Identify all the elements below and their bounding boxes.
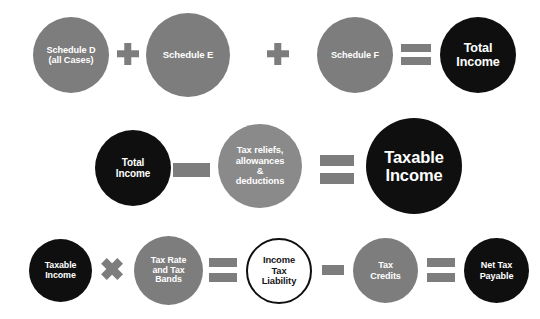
operator-multiply-1	[100, 257, 123, 280]
node-tax-reliefs-line-4: deductions	[236, 176, 285, 186]
node-tax-rate-bands-line-3: Bands	[155, 274, 182, 284]
operator-equals-4	[427, 258, 455, 282]
equals-icon-bottom-bar	[427, 273, 455, 282]
diagram-row-net-tax-payable: Taxable Income Tax Rate and Tax Bands In…	[0, 220, 540, 319]
node-tax-rate-bands-line-1: Tax Rate	[151, 255, 187, 265]
node-taxable-income-result[interactable]: Taxable Income	[366, 118, 462, 214]
node-income-tax-liability[interactable]: Income Tax Liability	[246, 238, 312, 304]
node-tax-rate-bands[interactable]: Tax Rate and Tax Bands	[134, 236, 203, 305]
operator-plus-1	[117, 43, 139, 65]
operator-plus-2	[267, 43, 289, 65]
node-schedule-e-label: Schedule E	[161, 50, 216, 61]
node-net-tax-payable-line-1: Net Tax	[481, 260, 512, 270]
node-income-tax-liability-line-2: Tax	[271, 265, 286, 276]
plus-icon-vertical-bar	[274, 43, 281, 65]
node-total-income-line-2: Income	[116, 168, 150, 179]
income-tax-computation-diagram: Schedule D (all Cases) Schedule E Schedu…	[0, 0, 540, 319]
node-net-tax-payable[interactable]: Net Tax Payable	[464, 238, 529, 303]
operator-minus-1	[173, 163, 210, 177]
node-schedule-d-line-2: (all Cases)	[49, 55, 94, 65]
equals-icon-top-bar	[401, 44, 431, 52]
node-taxable-income-line-1: Taxable	[45, 260, 77, 270]
equals-icon-bottom-bar	[209, 273, 237, 282]
node-tax-rate-bands-line-2: and Tax	[152, 265, 184, 275]
node-tax-reliefs[interactable]: Tax reliefs, allowances & deductions	[218, 124, 302, 208]
plus-icon-vertical-bar	[124, 43, 131, 65]
node-total-income-result-line-2: Income	[456, 55, 500, 69]
node-schedule-e[interactable]: Schedule E	[146, 13, 230, 97]
operator-equals-2	[320, 155, 354, 184]
node-tax-reliefs-line-1: Tax reliefs,	[237, 145, 284, 155]
node-schedule-f[interactable]: Schedule F	[317, 17, 393, 93]
node-tax-reliefs-line-2: allowances	[236, 156, 285, 166]
node-tax-credits[interactable]: Tax Credits	[353, 238, 418, 303]
equals-icon-top-bar	[427, 258, 455, 267]
node-total-income-result-line-1: Total	[464, 41, 493, 55]
node-income-tax-liability-line-1: Income	[263, 254, 295, 265]
minus-icon-bar	[173, 163, 210, 177]
node-taxable-income[interactable]: Taxable Income	[29, 239, 92, 302]
node-schedule-d[interactable]: Schedule D (all Cases)	[33, 17, 109, 93]
node-net-tax-payable-line-2: Payable	[480, 271, 514, 281]
minus-icon-bar	[322, 265, 344, 275]
node-schedule-f-label: Schedule F	[329, 50, 381, 60]
diagram-row-total-income: Schedule D (all Cases) Schedule E Schedu…	[0, 0, 540, 110]
node-taxable-income-line-2: Income	[45, 270, 75, 280]
diagram-row-taxable-income: Total Income Tax reliefs, allowances & d…	[0, 110, 540, 220]
operator-minus-2	[322, 265, 344, 275]
node-taxable-income-result-line-2: Income	[385, 166, 442, 184]
node-total-income-line-1: Total	[122, 157, 145, 168]
node-total-income-result[interactable]: Total Income	[440, 17, 516, 93]
equals-icon-bottom-bar	[320, 173, 354, 184]
node-tax-credits-line-1: Tax	[378, 260, 393, 270]
equals-icon-top-bar	[209, 258, 237, 267]
equals-icon-bottom-bar	[401, 57, 431, 65]
node-tax-reliefs-line-3: &	[257, 166, 264, 176]
node-tax-credits-line-2: Credits	[370, 271, 401, 281]
node-schedule-d-line-1: Schedule D	[46, 45, 95, 55]
node-total-income[interactable]: Total Income	[95, 130, 171, 206]
node-income-tax-liability-line-3: Liability	[262, 275, 297, 286]
operator-equals-3	[209, 258, 237, 282]
operator-equals-1	[401, 44, 431, 65]
node-taxable-income-result-line-1: Taxable	[384, 148, 444, 166]
equals-icon-top-bar	[320, 155, 354, 166]
